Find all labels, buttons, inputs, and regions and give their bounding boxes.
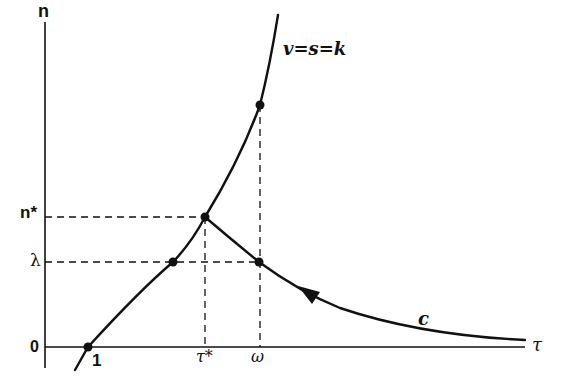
n-star-label: n* (20, 204, 37, 221)
lambda-label: λ (30, 252, 41, 269)
curve-v-s-k (75, 15, 278, 370)
omega-label: ω (251, 349, 264, 365)
guide-lines (45, 105, 260, 347)
origin-label: 0 (30, 339, 39, 355)
point-omega-top (256, 101, 265, 110)
x-axis-label: τ (532, 336, 542, 354)
tick-one-label: 1 (92, 352, 101, 369)
point-lambda-right (255, 258, 264, 267)
curve-c-label: c (418, 310, 429, 328)
curve-c (205, 217, 525, 340)
tau-star-label: τ* (196, 349, 213, 365)
y-axis-label: n (38, 2, 49, 20)
curve-v-s-k-label: v=s=k (283, 40, 346, 58)
point-peak (201, 213, 210, 222)
arrow-icon (298, 286, 320, 304)
points (84, 101, 265, 352)
point-lambda-left (169, 258, 178, 267)
